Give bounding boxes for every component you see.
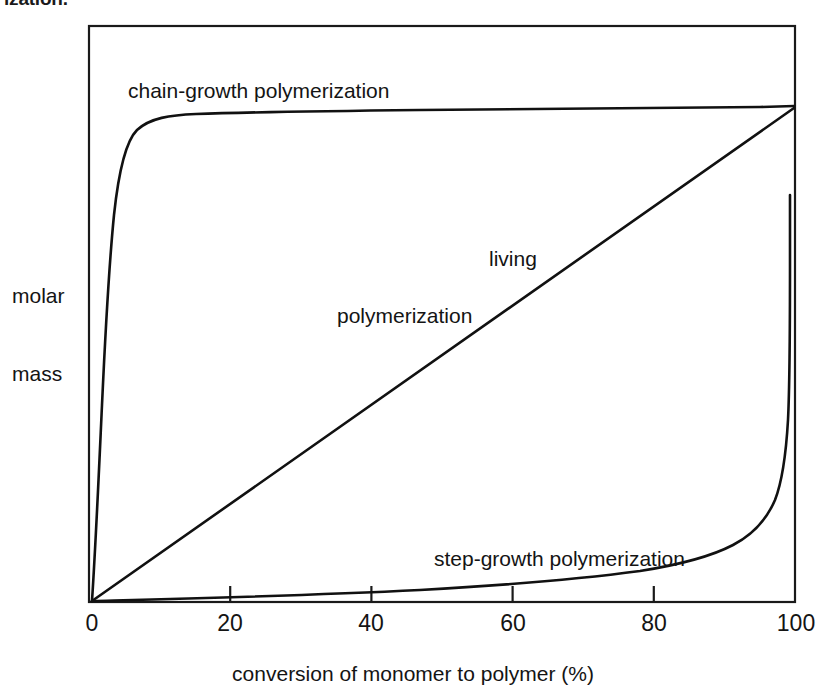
- x-axis-title: conversion of monomer to polymer (%): [0, 662, 826, 686]
- annotation-step-growth: step-growth polymerization: [434, 548, 685, 569]
- x-tick-label-80: 80: [641, 612, 667, 635]
- x-tick-label-20: 20: [217, 612, 243, 635]
- y-axis-label-line2: mass: [12, 363, 62, 384]
- x-tick-label-0: 0: [86, 612, 99, 635]
- y-axis-label-line1: molar: [12, 285, 65, 306]
- x-tick-label-60: 60: [500, 612, 526, 635]
- x-tick-label-40: 40: [358, 612, 384, 635]
- polymerization-chart: molar mass chain-growth polymerization l…: [0, 0, 826, 700]
- figure-page: ization. molar mass chain-growth polymer…: [0, 0, 826, 700]
- chart-plot-area: [0, 0, 826, 700]
- annotation-chain-growth: chain-growth polymerization: [128, 80, 389, 101]
- annotation-living: living: [489, 248, 537, 269]
- x-tick-label-100: 100: [777, 612, 815, 635]
- annotation-living-polymerization: polymerization: [337, 305, 472, 326]
